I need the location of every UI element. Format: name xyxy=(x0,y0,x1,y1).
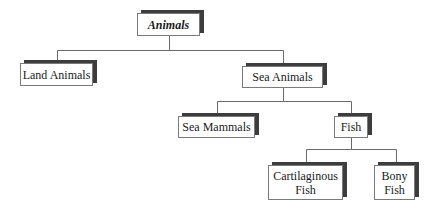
node-cartilaginous-fish: Cartilaginous Fish xyxy=(268,165,343,200)
node-sea-animals: Sea Animals xyxy=(242,66,323,88)
node-label-land-animals: Land Animals xyxy=(23,68,91,82)
node-bony-fish: Bony Fish xyxy=(374,165,415,200)
node-land-animals: Land Animals xyxy=(20,63,93,86)
node-label-sea-mammals: Sea Mammals xyxy=(182,120,250,134)
node-fish: Fish xyxy=(334,116,368,138)
node-box: Sea Animals xyxy=(242,66,323,88)
node-sea-mammals: Sea Mammals xyxy=(178,116,255,138)
node-box: Cartilaginous Fish xyxy=(268,165,343,200)
node-box: Bony Fish xyxy=(374,165,415,200)
node-box: Sea Mammals xyxy=(178,116,255,138)
node-box: Land Animals xyxy=(20,63,93,86)
node-label-sea-animals: Sea Animals xyxy=(252,70,312,84)
node-animals: Animals xyxy=(137,13,200,36)
node-label-bony-fish: Bony Fish xyxy=(381,169,407,197)
node-label-fish: Fish xyxy=(341,120,362,134)
tree-diagram: Animals Land Animals Sea Animals Sea Mam… xyxy=(0,0,439,208)
node-box: Animals xyxy=(137,13,200,36)
node-label-cartilaginous-fish: Cartilaginous Fish xyxy=(273,169,338,197)
node-box: Fish xyxy=(334,116,368,138)
node-label-animals: Animals xyxy=(148,18,189,32)
